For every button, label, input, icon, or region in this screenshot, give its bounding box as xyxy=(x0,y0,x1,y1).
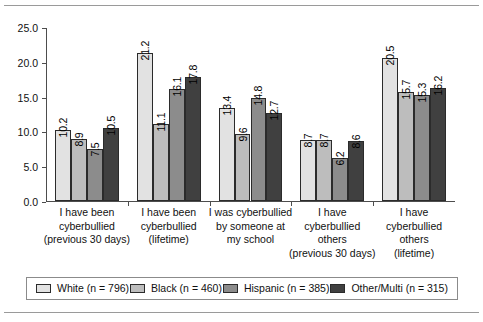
y-axis-tick-label: 25.0 xyxy=(6,23,38,33)
x-axis-category-labels: I have beencyberbullied(previous 30 days… xyxy=(46,206,455,268)
bar xyxy=(300,140,316,201)
y-axis-tick-mark xyxy=(42,202,46,203)
bar xyxy=(55,130,71,201)
y-axis-tick-mark xyxy=(42,28,46,29)
legend-item[interactable]: White (n = 796) xyxy=(36,283,129,294)
bar-value-label: 12.7 xyxy=(269,100,280,120)
top-divider-rule xyxy=(4,5,479,6)
category-label-line: cyberbullied xyxy=(122,220,216,234)
bar xyxy=(414,95,430,201)
legend-swatch-icon xyxy=(223,284,238,293)
bar-value-label: 14.8 xyxy=(253,86,264,106)
y-axis-tick-mark xyxy=(42,98,46,99)
bar-value-label: 15.3 xyxy=(417,82,428,102)
x-axis-category-label: I havecyberbulliedothers(previous 30 day… xyxy=(285,206,379,260)
bar xyxy=(169,89,185,201)
category-label-line: (lifetime) xyxy=(367,247,461,261)
category-label-line: others xyxy=(367,233,461,247)
category-label-line: cyberbullied xyxy=(367,220,461,234)
category-label-line: (previous 30 days) xyxy=(285,247,379,261)
category-label-line: cyberbullied xyxy=(40,220,134,234)
bar-value-label: 8.9 xyxy=(73,133,84,147)
x-axis-line xyxy=(46,201,455,202)
bar-value-label: 11.1 xyxy=(155,112,166,131)
bar-value-label: 13.4 xyxy=(221,96,232,116)
legend-label: Other/Multi (n = 315) xyxy=(351,283,448,294)
category-label-line: my school xyxy=(204,233,298,247)
legend-swatch-icon xyxy=(330,284,345,293)
legend-label: Hispanic (n = 385) xyxy=(244,283,330,294)
y-axis-tick-label: 10.0 xyxy=(6,127,38,137)
legend-item[interactable]: Hispanic (n = 385) xyxy=(223,283,330,294)
x-axis-category-label: I have beencyberbullied(lifetime) xyxy=(122,206,216,247)
legend-swatch-icon xyxy=(130,284,145,293)
category-label-line: I was cyberbullied xyxy=(204,206,298,220)
bar-value-label: 8.6 xyxy=(351,135,362,149)
y-axis-tick-label: 0.0 xyxy=(6,197,38,207)
x-axis-category-label: I have beencyberbullied(previous 30 days… xyxy=(40,206,134,247)
bar-value-label: 20.5 xyxy=(385,46,396,66)
y-axis-line xyxy=(46,28,47,202)
bottom-divider-rule xyxy=(4,312,479,313)
bar xyxy=(87,149,103,201)
category-label-line: I have been xyxy=(122,206,216,220)
figure-container: 10.28.97.510.521.211.116.117.813.49.614.… xyxy=(0,0,483,322)
bar xyxy=(316,140,332,201)
bar-value-label: 8.7 xyxy=(319,134,330,148)
bar xyxy=(235,134,251,201)
bar-value-label: 8.7 xyxy=(303,134,314,148)
legend-label: Black (n = 460) xyxy=(151,283,222,294)
category-label-line: others xyxy=(285,233,379,247)
bar xyxy=(266,113,282,201)
category-label-line: I have xyxy=(367,206,461,220)
y-axis-tick-label: 20.0 xyxy=(6,58,38,68)
category-label-line: I have xyxy=(285,206,379,220)
bar xyxy=(382,58,398,201)
bar-value-label: 9.6 xyxy=(237,128,248,142)
bar xyxy=(348,141,364,201)
bar xyxy=(71,139,87,201)
bar-value-label: 10.2 xyxy=(57,118,68,138)
y-axis-tick-mark xyxy=(42,167,46,168)
chart-legend: White (n = 796)Black (n = 460)Hispanic (… xyxy=(26,277,458,300)
x-axis-category-label: I was cyberbulliedby someone atmy school xyxy=(204,206,298,247)
category-label-line: I have been xyxy=(40,206,134,220)
bar xyxy=(153,124,169,201)
y-axis-tick-mark xyxy=(42,132,46,133)
bar-value-label: 6.2 xyxy=(335,151,346,165)
bar xyxy=(251,98,267,201)
y-axis-tick-label: 15.0 xyxy=(6,93,38,103)
legend-label: White (n = 796) xyxy=(57,283,129,294)
bar-value-label: 16.1 xyxy=(171,77,182,97)
bar-value-label: 21.2 xyxy=(139,41,150,61)
y-axis-tick-label: 5.0 xyxy=(6,162,38,172)
bar xyxy=(103,128,119,201)
y-axis-tick-mark xyxy=(42,63,46,64)
x-axis-category-label: I havecyberbulliedothers(lifetime) xyxy=(367,206,461,260)
bar xyxy=(137,53,153,201)
bar xyxy=(219,108,235,201)
bar-value-label: 15.7 xyxy=(401,80,412,100)
bar-value-label: 16.2 xyxy=(433,76,444,96)
legend-item[interactable]: Other/Multi (n = 315) xyxy=(330,283,448,294)
bar xyxy=(398,92,414,201)
category-label-line: by someone at xyxy=(204,220,298,234)
bar xyxy=(430,88,446,201)
bar-value-label: 7.5 xyxy=(89,142,100,156)
legend-item[interactable]: Black (n = 460) xyxy=(130,283,222,294)
bar-value-label: 17.8 xyxy=(187,65,198,85)
category-label-line: (lifetime) xyxy=(122,233,216,247)
bar-value-label: 10.5 xyxy=(105,116,116,136)
category-label-line: (previous 30 days) xyxy=(40,233,134,247)
bar xyxy=(185,77,201,201)
category-label-line: cyberbullied xyxy=(285,220,379,234)
chart-plot-area: 10.28.97.510.521.211.116.117.813.49.614.… xyxy=(46,28,455,202)
legend-swatch-icon xyxy=(36,284,51,293)
